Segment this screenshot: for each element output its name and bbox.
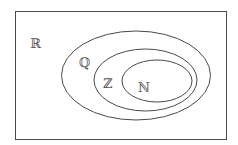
naturals-label: ℕ xyxy=(138,80,150,95)
reals-label: ℝ xyxy=(30,36,42,51)
reals-set-box xyxy=(16,12,227,140)
venn-diagram: ℝ ℚ ℤ ℕ xyxy=(0,0,238,145)
rationals-label: ℚ xyxy=(79,55,90,70)
integers-label: ℤ xyxy=(103,76,113,91)
